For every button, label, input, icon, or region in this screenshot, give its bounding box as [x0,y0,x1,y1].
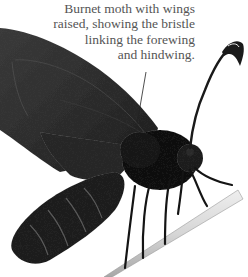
caption-line-3: linking the forewing [0,32,195,47]
caption-line-4: and hindwing. [0,47,195,62]
moth-abdomen [11,172,124,264]
figure-caption: Burnet moth with wings raised, showing t… [0,1,195,62]
caption-line-1: Burnet moth with wings [0,1,195,16]
caption-line-2: raised, showing the bristle [0,16,195,31]
moth-antenna [190,41,244,148]
